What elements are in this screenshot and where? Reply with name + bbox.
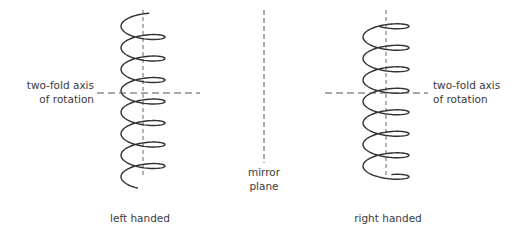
- left-handed-caption: left handed: [95, 211, 185, 225]
- left-axis-label: two-fold axis of rotation: [20, 78, 94, 106]
- mirror-plane-label-line2: plane: [239, 179, 289, 193]
- right-axis-label: two-fold axis of rotation: [433, 78, 523, 106]
- right-handed-helix: [325, 10, 428, 179]
- chirality-diagram: two-fold axis of rotation two-fold axis …: [0, 0, 525, 238]
- right-axis-label-line2: of rotation: [433, 92, 523, 106]
- left-handed-helix: [97, 10, 200, 188]
- mirror-plane-label-line1: mirror: [239, 165, 289, 179]
- left-axis-label-line2: of rotation: [20, 92, 94, 106]
- mirror-plane-label: mirror plane: [239, 165, 289, 193]
- diagram-canvas: [0, 0, 525, 238]
- right-axis-label-line1: two-fold axis: [433, 78, 523, 92]
- left-axis-label-line1: two-fold axis: [20, 78, 94, 92]
- right-handed-caption: right handed: [343, 211, 433, 225]
